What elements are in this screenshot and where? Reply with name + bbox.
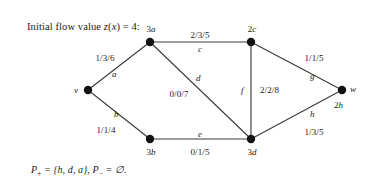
edge-name-g: g (310, 72, 315, 81)
edge-line-h (251, 90, 342, 139)
node-label-3b: 3b (146, 148, 155, 157)
node-dot-3b (146, 135, 154, 143)
edge-name-h: h (310, 110, 315, 119)
edge-line-g (251, 42, 342, 90)
edge-name-e: e (198, 130, 202, 139)
edge-line-d (150, 42, 251, 139)
node-label-3d: 3d (247, 148, 256, 157)
node-label-v: v (74, 86, 78, 95)
edge-value-f: 2/2/8 (260, 86, 279, 95)
edge-name-f: f (241, 86, 244, 95)
edge-name-b: b (114, 110, 119, 119)
node-dot-3a (146, 38, 154, 46)
caption-p-plus-set: = {h, d, a}, (41, 164, 92, 175)
edge-value-h: 1/3/5 (304, 128, 323, 137)
edge-name-a: a (112, 70, 117, 79)
node-label-2c: 2c (248, 25, 257, 34)
edge-value-b: 1/1/4 (96, 126, 115, 135)
figure-page: Initial flow value z(x) = 4: v 3a 3b 2c … (0, 0, 369, 182)
node-label-3a: 3a (146, 25, 155, 34)
edge-value-g: 1/1/5 (304, 54, 323, 63)
edge-line-a (88, 42, 150, 90)
edge-value-d: 0/0/7 (169, 90, 188, 99)
edge-value-a: 1/3/6 (95, 54, 114, 63)
node-dot-3d (247, 135, 255, 143)
node-dot-2c (247, 38, 255, 46)
edge-value-c: 2/3/5 (190, 31, 209, 40)
caption-p-minus-set: = ∅. (103, 164, 127, 175)
edge-value-e: 0/1/5 (190, 148, 209, 157)
caption-text: P+ = {h, d, a}, P− = ∅. (31, 165, 127, 178)
node-label-w: w (350, 85, 356, 94)
edge-name-c: c (198, 45, 202, 54)
node-dot-v (84, 86, 92, 94)
node-dot-w (338, 86, 346, 94)
edge-name-d: d (196, 74, 201, 83)
node-label-2h: 2h (334, 101, 343, 110)
